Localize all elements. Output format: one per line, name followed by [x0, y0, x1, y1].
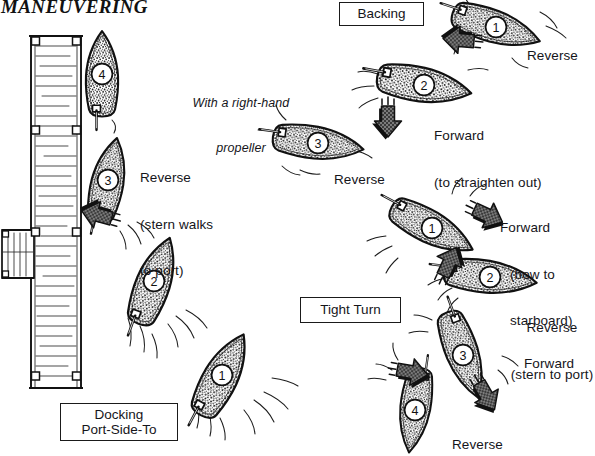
- boat-number-badge: 3: [98, 170, 119, 191]
- boat-number-badge: 2: [414, 75, 435, 96]
- boat-number-text: 3: [460, 349, 467, 363]
- panel-label-docking[interactable]: Docking Port-Side-To: [60, 403, 178, 441]
- docking-reverse-line-2: (stern walks: [140, 217, 213, 233]
- annotation-docking-reverse: Reverse (stern walks to port): [140, 139, 213, 310]
- tight-forward-line-2: (bow to: [500, 267, 573, 283]
- annotation-tight-reverse-4: Reverse: [452, 437, 503, 453]
- boat-number-text: 2: [487, 271, 494, 285]
- tight-forward-line-1: Forward: [500, 220, 573, 236]
- propeller-note-line-1: With a right-hand: [182, 96, 300, 111]
- boat-number-text: 4: [412, 404, 419, 418]
- dock: [2, 36, 83, 388]
- boat-number-badge: 1: [486, 17, 507, 38]
- boat-number-text: 4: [99, 68, 106, 82]
- panel-label-tight-turn[interactable]: Tight Turn: [300, 297, 401, 323]
- docking-reverse-line-1: Reverse: [140, 170, 213, 186]
- boat-number-text: 1: [429, 222, 436, 236]
- boat-number-text: 2: [421, 79, 428, 93]
- boat-number-badge: 2: [480, 267, 501, 288]
- annotation-backing-reverse-bottom: Reverse: [334, 172, 385, 188]
- boat-number-text: 3: [105, 174, 112, 188]
- tight-reverse-line-1: Reverse: [509, 320, 595, 336]
- annotation-tight-reverse-2: Reverse (stern to port): [509, 289, 595, 413]
- boat-number-badge: 3: [308, 133, 329, 154]
- boat-number-badge: 3: [453, 345, 474, 366]
- backing-forward-line-1: Forward: [434, 128, 542, 144]
- docking-box-text: Docking Port-Side-To: [81, 407, 156, 438]
- backing-forward-line-2: (to straighten out): [434, 175, 542, 191]
- page-title: MANEUVERING: [1, 0, 148, 18]
- panel-label-backing[interactable]: Backing: [339, 2, 424, 26]
- boat-number-badge: 1: [212, 365, 233, 386]
- arrow-backing-2: [372, 97, 401, 139]
- boat-number-text: 3: [315, 137, 322, 151]
- boat-number-text: 1: [219, 369, 226, 383]
- docking-reverse-line-3: to port): [140, 263, 213, 279]
- boat-number-text: 1: [493, 21, 500, 35]
- boat-number-badge: 4: [92, 64, 113, 85]
- annotation-backing-reverse-top: Reverse: [527, 48, 578, 64]
- annotation-tight-forward-3: Forward: [524, 356, 574, 372]
- diagram-canvas: 12341231234 MANEUVERING With a right-han…: [0, 0, 595, 456]
- boat-number-badge: 4: [405, 400, 426, 421]
